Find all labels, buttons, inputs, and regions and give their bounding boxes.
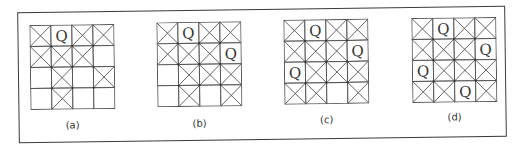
blocked-cell — [220, 22, 241, 43]
blocked-cell — [454, 60, 475, 81]
blocked-cell — [412, 39, 433, 60]
blocked-cell — [306, 83, 327, 104]
queen-cell: Q — [51, 25, 72, 46]
blocked-cell — [30, 25, 51, 46]
queen-cell: Q — [455, 81, 476, 102]
empty-cell — [94, 87, 115, 108]
queen-cell: Q — [305, 20, 326, 41]
blocked-cell — [72, 25, 93, 46]
empty-cell — [200, 85, 221, 106]
blocked-cell — [413, 81, 434, 102]
queen-marker: Q — [289, 64, 302, 82]
blocked-cell — [93, 66, 114, 87]
blocked-cell — [475, 59, 496, 80]
empty-cell — [157, 65, 178, 86]
empty-cell — [73, 88, 94, 109]
board-grid-b: QQ — [156, 21, 241, 106]
blocked-cell — [52, 88, 73, 109]
blocked-cell — [475, 17, 496, 38]
panel-label-b: (b) — [180, 118, 220, 130]
panel-label-c: (c) — [307, 114, 347, 126]
panel-label-a: (a) — [53, 119, 93, 131]
blocked-cell — [434, 81, 455, 102]
empty-cell — [72, 67, 93, 88]
blocked-cell — [179, 85, 200, 106]
empty-cell — [158, 86, 179, 107]
blocked-cell — [347, 61, 368, 82]
blocked-cell — [433, 39, 454, 60]
blocked-cell — [220, 64, 241, 85]
blocked-cell — [285, 83, 306, 104]
blocked-cell — [348, 82, 369, 103]
blocked-cell — [199, 22, 220, 43]
blocked-cell — [412, 18, 433, 39]
empty-cell — [327, 82, 348, 103]
queen-marker: Q — [479, 40, 492, 58]
queen-cell: Q — [347, 40, 368, 61]
queen-cell: Q — [284, 62, 305, 83]
queen-marker: Q — [417, 62, 430, 80]
blocked-cell — [284, 41, 305, 62]
queen-cell: Q — [220, 43, 241, 64]
diagram-frame: Q (a) QQ (b) QQQ (c) QQQQ (d) — [17, 6, 507, 143]
blocked-cell — [326, 19, 347, 40]
queen-marker: Q — [224, 45, 237, 63]
blocked-cell — [433, 60, 454, 81]
board-grid-d: QQQQ — [411, 17, 496, 102]
blocked-cell — [284, 20, 305, 41]
board-grid-c: QQQ — [283, 19, 368, 104]
empty-cell — [93, 45, 114, 66]
queen-cell: Q — [178, 22, 199, 43]
blocked-cell — [476, 80, 497, 101]
queen-cell: Q — [412, 60, 433, 81]
blocked-cell — [157, 23, 178, 44]
blocked-cell — [326, 61, 347, 82]
queen-cell: Q — [433, 18, 454, 39]
blocked-cell — [305, 62, 326, 83]
blocked-cell — [326, 40, 347, 61]
blocked-cell — [454, 39, 475, 60]
blocked-cell — [72, 46, 93, 67]
empty-cell — [31, 88, 52, 109]
panel-label-d: (d) — [435, 111, 475, 123]
blocked-cell — [178, 43, 199, 64]
board-grid-a: Q — [29, 24, 114, 109]
blocked-cell — [347, 19, 368, 40]
blocked-cell — [51, 67, 72, 88]
blocked-cell — [221, 85, 242, 106]
queen-marker: Q — [437, 20, 450, 38]
queen-marker: Q — [309, 22, 322, 40]
blocked-cell — [93, 24, 114, 45]
blocked-cell — [454, 18, 475, 39]
blocked-cell — [51, 46, 72, 67]
blocked-cell — [305, 41, 326, 62]
queen-marker: Q — [459, 83, 472, 101]
queen-marker: Q — [182, 24, 195, 42]
blocked-cell — [199, 64, 220, 85]
blocked-cell — [178, 64, 199, 85]
empty-cell — [30, 67, 51, 88]
queen-cell: Q — [475, 38, 496, 59]
queen-marker: Q — [55, 27, 68, 45]
blocked-cell — [30, 46, 51, 67]
queen-marker: Q — [351, 42, 364, 60]
blocked-cell — [157, 44, 178, 65]
blocked-cell — [199, 43, 220, 64]
